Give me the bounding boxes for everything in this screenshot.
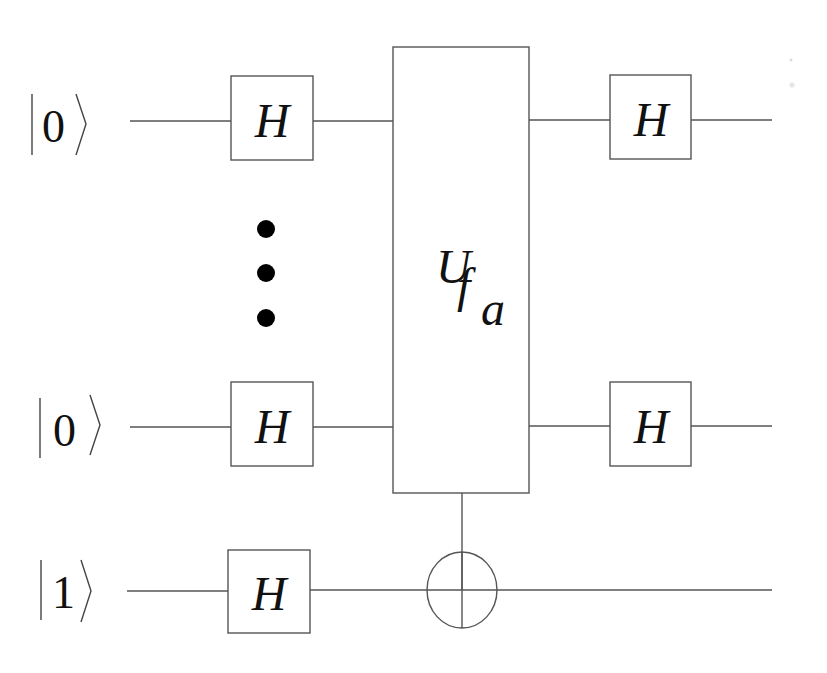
oracle-label-a: a: [481, 282, 505, 335]
ket-value-2: 0: [53, 405, 76, 456]
hadamard-gate-2-right: H: [610, 382, 691, 466]
ket-value-3: 1: [52, 567, 75, 618]
dot: [257, 264, 275, 282]
hadamard-gate-1-left: H: [231, 76, 313, 160]
hadamard-label: H: [633, 93, 671, 146]
hadamard-gate-3: H: [228, 550, 310, 633]
hadamard-label: H: [254, 400, 292, 453]
oracle-gate: U f a: [393, 47, 529, 493]
ket-right-angle: [76, 94, 86, 155]
ellipsis-dots: [257, 220, 275, 327]
dot: [257, 309, 275, 327]
dot: [257, 220, 275, 238]
hadamard-gate-1-right: H: [610, 75, 691, 159]
hadamard-label: H: [251, 567, 289, 620]
scan-artifact: [790, 59, 795, 88]
quantum-circuit: 0 H H 0 H H: [0, 0, 827, 673]
hadamard-label: H: [254, 94, 292, 147]
ket-right-angle: [90, 395, 100, 455]
ket-value-1: 0: [42, 101, 65, 152]
hadamard-gate-2-left: H: [231, 382, 313, 466]
ket-right-angle: [81, 560, 91, 622]
hadamard-label: H: [633, 400, 671, 453]
qubit-3: 1 H: [41, 550, 772, 633]
